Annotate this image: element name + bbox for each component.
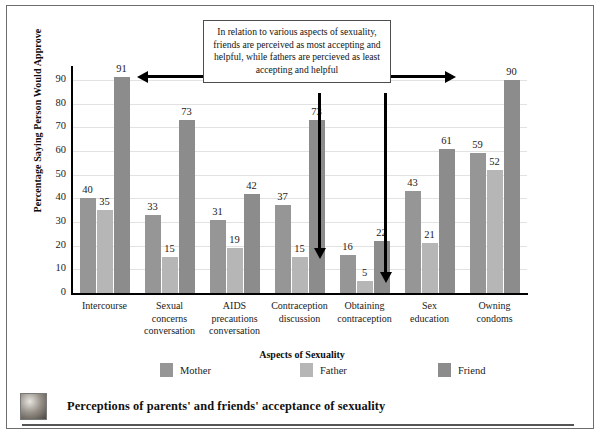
y-tick-label: 40	[44, 191, 66, 202]
bar-father-owning-condoms	[487, 170, 503, 293]
y-tick-label: 20	[44, 239, 66, 250]
bar-value-label: 37	[268, 191, 298, 202]
y-axis-line	[71, 66, 73, 295]
y-tick-label: 50	[44, 168, 66, 179]
annotation-arrow-down-left-head	[314, 248, 326, 259]
x-axis-title: Aspects of Sexuality	[0, 349, 604, 360]
bar-mother-intercourse	[80, 198, 96, 293]
bar-friend-owning-condoms	[504, 80, 520, 293]
bar-friend-sexual-concerns-conversation	[179, 120, 195, 293]
bar-father-sexual-concerns-conversation	[162, 257, 178, 293]
bar-friend-contraception-discussion	[309, 120, 325, 293]
bar-father-sex-education	[422, 243, 438, 293]
gridline	[72, 104, 527, 105]
bar-value-label: 73	[172, 106, 202, 117]
y-tick-label: 80	[44, 97, 66, 108]
y-tick-label: 0	[44, 286, 66, 297]
annotation-arrow-down-right-head	[380, 272, 392, 283]
photo-thumbnail-icon	[20, 393, 47, 420]
gridline	[72, 198, 527, 199]
x-category-label: Owningcondoms	[454, 300, 535, 325]
bar-mother-owning-condoms	[470, 153, 486, 293]
gridline	[72, 127, 527, 128]
y-tick-label: 10	[44, 262, 66, 273]
annotation-arrow-down-left-line	[318, 93, 321, 249]
legend-swatch-father-icon	[300, 363, 313, 377]
y-axis-ticks: 0102030405060708090	[40, 0, 66, 442]
bar-father-contraception-discussion	[292, 257, 308, 293]
bar-value-label: 42	[237, 180, 267, 191]
legend-label: Friend	[458, 365, 485, 376]
bar-value-label: 31	[203, 206, 233, 217]
x-axis-line	[71, 293, 528, 295]
bar-father-aids-precautions-conversation	[227, 248, 243, 293]
bar-value-label: 59	[463, 139, 493, 150]
bar-friend-aids-precautions-conversation	[244, 194, 260, 293]
figure-page: Percentage Saying Person Would Approve 0…	[0, 0, 604, 442]
y-tick-label: 70	[44, 120, 66, 131]
x-category-line: Owning	[454, 300, 535, 313]
bar-mother-aids-precautions-conversation	[210, 220, 226, 293]
y-tick-label: 60	[44, 144, 66, 155]
bar-father-obtaining-contraception	[357, 281, 373, 293]
bar-father-intercourse	[97, 210, 113, 293]
bar-friend-intercourse	[114, 77, 130, 293]
bar-value-label: 90	[497, 66, 527, 77]
bar-value-label: 61	[432, 135, 462, 146]
bar-value-label: 22	[367, 227, 397, 238]
gridline	[72, 222, 527, 223]
legend-swatch-friend-icon	[438, 363, 451, 377]
legend-item-mother[interactable]: Mother	[160, 363, 211, 377]
legend-item-father[interactable]: Father	[300, 363, 347, 377]
annotation-arrow-right-head	[445, 71, 456, 83]
bar-friend-sex-education	[439, 149, 455, 293]
bar-value-label: 73	[302, 106, 332, 117]
x-category-line: conversation	[194, 325, 275, 338]
bar-mother-sex-education	[405, 191, 421, 293]
figure-caption-row: Perceptions of parents' and friends' acc…	[20, 392, 580, 420]
bar-value-label: 43	[398, 177, 428, 188]
annotation-arrow-left-line	[148, 75, 204, 78]
bar-value-label: 91	[107, 63, 137, 74]
bar-value-label: 40	[73, 184, 103, 195]
legend-item-friend[interactable]: Friend	[438, 363, 485, 377]
gridline	[72, 175, 527, 176]
caption-divider	[22, 424, 574, 426]
annotation-arrow-left-head	[137, 71, 148, 83]
x-category-line: condoms	[454, 313, 535, 326]
legend-swatch-mother-icon	[160, 363, 173, 377]
y-tick-label: 90	[44, 73, 66, 84]
annotation-arrow-right-line	[391, 75, 445, 78]
legend-label: Mother	[180, 365, 211, 376]
figure-caption: Perceptions of parents' and friends' acc…	[67, 399, 385, 414]
gridline	[72, 151, 527, 152]
bar-value-label: 33	[138, 201, 168, 212]
y-tick-label: 30	[44, 215, 66, 226]
bar-value-label: 16	[333, 241, 363, 252]
annotation-arrow-down-right-line	[384, 93, 387, 273]
legend: MotherFatherFriend	[160, 363, 490, 381]
annotation-callout: In relation to various aspects of sexual…	[203, 20, 391, 83]
bar-friend-obtaining-contraception	[374, 241, 390, 293]
legend-label: Father	[320, 365, 347, 376]
